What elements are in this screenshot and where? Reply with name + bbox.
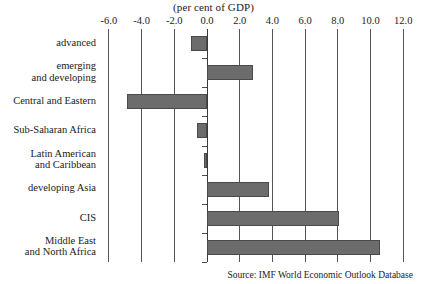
category-label: developing Asia <box>28 182 96 194</box>
bar <box>207 240 380 255</box>
bar <box>197 123 207 138</box>
category-label-line: advanced <box>56 37 96 49</box>
category-label-line: and North Africa <box>25 246 96 258</box>
gridline <box>337 29 338 262</box>
source-note: Source: IMF World Economic Outlook Datab… <box>227 270 413 280</box>
category-label-line: CIS <box>80 212 96 224</box>
gridline <box>174 29 175 262</box>
bar <box>207 182 269 197</box>
bar <box>207 211 339 226</box>
gridline <box>108 29 109 262</box>
x-axis-tick-label: 8.0 <box>331 15 344 26</box>
x-axis-tick-label: 4.0 <box>266 15 279 26</box>
x-axis-tick-label: -4.0 <box>133 15 150 26</box>
category-axis-tick <box>202 262 207 263</box>
category-axis-tick <box>202 58 207 59</box>
category-axis-tick <box>202 146 207 147</box>
category-label: Middle Eastand North Africa <box>25 235 96 258</box>
x-axis-tick-label: -2.0 <box>166 15 183 26</box>
gridline <box>305 29 306 262</box>
category-label: Central and Eastern <box>13 95 96 107</box>
chart-page: (per cent of GDP) -6.0-4.0-2.00.02.04.06… <box>0 0 421 284</box>
x-axis-tick-label: 0.0 <box>200 15 213 26</box>
category-label: Sub-Saharan Africa <box>13 124 96 136</box>
gridline <box>141 29 142 262</box>
x-axis-tick-label: -6.0 <box>101 15 118 26</box>
category-axis-tick <box>202 204 207 205</box>
category-label-line: and developing <box>32 72 96 84</box>
x-axis-tick-label: 2.0 <box>233 15 246 26</box>
category-label: CIS <box>80 212 96 224</box>
gridline <box>403 29 404 262</box>
category-label-line: developing Asia <box>28 182 96 194</box>
category-label-line: emerging <box>32 60 96 72</box>
category-axis-tick <box>202 116 207 117</box>
category-axis-tick <box>202 233 207 234</box>
bar <box>191 36 207 51</box>
category-label: emergingand developing <box>32 60 96 83</box>
gridline <box>239 29 240 262</box>
category-label-line: Sub-Saharan Africa <box>13 124 96 136</box>
category-label-line: Latin American <box>30 148 96 160</box>
category-axis-tick <box>202 87 207 88</box>
bar <box>204 153 207 168</box>
category-label: advanced <box>56 37 96 49</box>
bar <box>207 65 253 80</box>
category-label-line: and Caribbean <box>30 159 96 171</box>
category-label: Latin Americanand Caribbean <box>30 148 96 171</box>
bar <box>127 94 207 109</box>
category-axis-tick <box>202 175 207 176</box>
plot-area: -6.0-4.0-2.00.02.04.06.08.010.012.0advan… <box>0 0 421 284</box>
category-label-line: Central and Eastern <box>13 95 96 107</box>
x-axis-tick-label: 12.0 <box>394 15 412 26</box>
gridline <box>272 29 273 262</box>
category-label-line: Middle East <box>25 235 96 247</box>
x-axis-tick-label: 10.0 <box>361 15 379 26</box>
x-axis-tick-label: 6.0 <box>299 15 312 26</box>
gridline <box>370 29 371 262</box>
